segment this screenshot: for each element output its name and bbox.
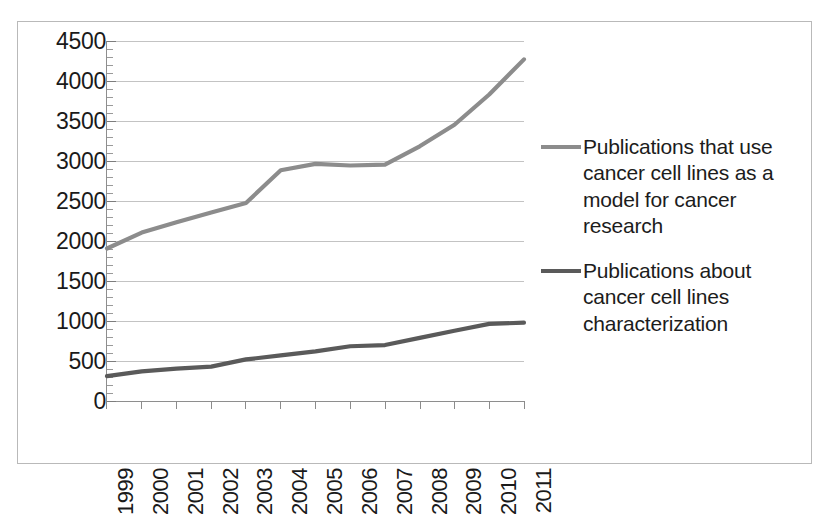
x-axis: 1999200020012002200320042005200620072008… <box>106 412 524 472</box>
series-line-1 <box>107 59 524 248</box>
x-tick <box>454 401 455 409</box>
x-tick-label: 2007 <box>394 468 416 515</box>
chart-figure-frame: 450040003500300025002000150010005000 199… <box>17 21 812 464</box>
x-tick <box>280 401 281 409</box>
x-tick-label: 2002 <box>220 468 242 515</box>
x-tick-label: 2008 <box>429 468 451 515</box>
y-tick-label: 2000 <box>18 230 106 253</box>
y-tick-label: 0 <box>18 390 106 413</box>
legend-entry-2: Publications about cancer cell lines cha… <box>541 258 803 337</box>
chart-legend: Publications that use cancer cell lines … <box>541 134 803 355</box>
x-tick-label: 2006 <box>359 468 381 515</box>
y-tick-label: 500 <box>18 350 106 373</box>
x-tick <box>524 401 525 409</box>
x-tick-label: 2009 <box>463 468 485 515</box>
x-tick-label: 2005 <box>324 468 346 515</box>
legend-label: Publications that use cancer cell lines … <box>583 134 803 240</box>
legend-line-swatch <box>541 269 581 273</box>
x-tick-label: 2003 <box>254 468 276 515</box>
x-tick <box>245 401 246 409</box>
y-tick-label: 1000 <box>18 310 106 333</box>
y-tick-label: 3500 <box>18 110 106 133</box>
x-axis-ticks <box>106 401 524 410</box>
x-tick <box>385 401 386 409</box>
legend-label: Publications about cancer cell lines cha… <box>583 258 803 337</box>
x-tick <box>350 401 351 409</box>
x-tick <box>315 401 316 409</box>
y-tick-label: 4500 <box>18 30 106 53</box>
y-tick-label: 4000 <box>18 70 106 93</box>
series-lines <box>107 41 524 400</box>
x-tick <box>211 401 212 409</box>
y-tick-label: 1500 <box>18 270 106 293</box>
y-tick-label: 2500 <box>18 190 106 213</box>
x-tick-label: 2011 <box>533 468 555 513</box>
x-tick-label: 2004 <box>289 468 311 515</box>
y-tick-label: 3000 <box>18 150 106 173</box>
plot-area <box>106 41 524 401</box>
legend-line-swatch <box>541 145 581 149</box>
x-tick <box>489 401 490 409</box>
y-axis: 450040003500300025002000150010005000 <box>18 22 106 465</box>
x-tick <box>106 401 107 409</box>
x-tick-label: 2001 <box>185 468 207 515</box>
x-tick-label: 2010 <box>498 468 520 515</box>
series-line-2 <box>107 323 524 376</box>
x-tick <box>141 401 142 409</box>
x-tick-label: 1999 <box>115 468 137 515</box>
x-tick <box>176 401 177 409</box>
x-tick <box>420 401 421 409</box>
legend-entry-1: Publications that use cancer cell lines … <box>541 134 803 240</box>
x-tick-label: 2000 <box>150 468 172 515</box>
